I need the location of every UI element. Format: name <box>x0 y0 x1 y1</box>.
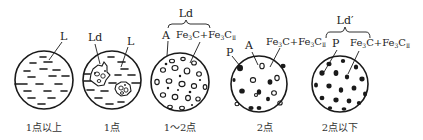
label-L: L <box>127 35 135 48</box>
leader-line <box>324 50 337 72</box>
panel-liquid: L 1点以上 <box>15 30 73 133</box>
ledeburite-colony <box>115 82 131 96</box>
panel-below-point-2: Ld′ P Fe3C+Fe3CⅡ 2点以下 <box>312 14 410 133</box>
label-P: P <box>226 46 234 59</box>
label-A: A <box>244 39 254 52</box>
ledeburite-colony <box>90 62 110 86</box>
label-cementite: Fe3C+Fe3CⅡ <box>266 36 326 48</box>
caption: 2点以下 <box>322 122 358 133</box>
label-A: A <box>161 29 171 42</box>
leader-line <box>167 41 168 56</box>
caption: 1点 <box>104 122 120 133</box>
panel-point-1-to-2: Ld A Fe3C+Fe3CⅡ 1～2点 <box>151 7 236 133</box>
label-L: L <box>60 30 68 43</box>
liquid-dashes <box>15 57 69 104</box>
leader-line <box>49 42 62 60</box>
austenite-grains <box>155 57 207 109</box>
leader-line <box>121 47 128 67</box>
leader-line <box>252 52 258 65</box>
group-bracket <box>168 20 210 28</box>
group-label-Ld-prime: Ld′ <box>337 14 354 27</box>
caption: 1点以上 <box>26 122 62 133</box>
group-label-Ld: Ld <box>179 7 193 20</box>
microstructure-diagram: L 1点以上 <box>0 0 423 140</box>
austenite-grains-ring <box>255 94 258 97</box>
label-P: P <box>332 37 340 50</box>
caption: 2点 <box>257 122 273 133</box>
label-cementite: Fe3C+Fe3CⅡ <box>176 29 236 41</box>
label-cementite: Fe3C+Fe3CⅡ <box>350 37 410 49</box>
panel-point-1: Ld L 1点 <box>83 31 141 133</box>
pearlite-particles <box>314 59 367 111</box>
caption: 1～2点 <box>164 122 197 133</box>
panel-point-2: P A Fe3C+Fe3CⅡ 2点 <box>226 36 326 133</box>
label-Ld: Ld <box>88 31 102 44</box>
grain-circle <box>15 51 73 109</box>
